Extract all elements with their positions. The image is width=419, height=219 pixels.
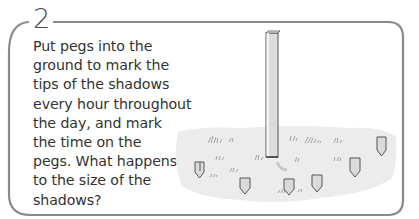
shadow-peg-illustration <box>0 0 419 219</box>
post-icon <box>266 31 280 157</box>
